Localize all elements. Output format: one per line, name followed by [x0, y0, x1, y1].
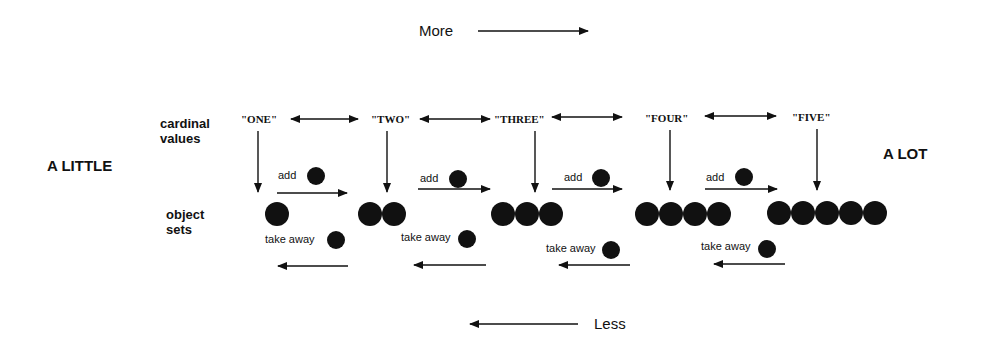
less-label: Less — [594, 315, 626, 332]
diagram: More Less A LITTLE A LOT cardinal values… — [0, 0, 990, 355]
more-label: More — [419, 22, 453, 39]
take-away-label-1: take away — [265, 233, 315, 245]
add-label-4: add — [706, 171, 724, 183]
take-away-label-3: take away — [546, 242, 596, 254]
cardinal-two: "TWO" — [371, 113, 410, 125]
add-label-1: add — [278, 169, 296, 181]
cardinal-one: "ONE" — [241, 113, 277, 125]
diagram-graphics — [0, 0, 990, 355]
add-label-3: add — [564, 171, 582, 183]
add-label-2: add — [420, 172, 438, 184]
cardinal-four: "FOUR" — [645, 112, 688, 124]
take-away-label-2: take away — [401, 231, 451, 243]
take-away-label-4: take away — [701, 240, 751, 252]
cardinal-three: "THREE" — [494, 113, 545, 125]
a-little-label: A LITTLE — [47, 157, 112, 174]
cardinal-five: "FIVE" — [792, 111, 831, 123]
a-lot-label: A LOT — [883, 145, 927, 162]
object-sets-label: object sets — [166, 207, 204, 237]
cardinal-values-label: cardinal values — [160, 116, 210, 146]
